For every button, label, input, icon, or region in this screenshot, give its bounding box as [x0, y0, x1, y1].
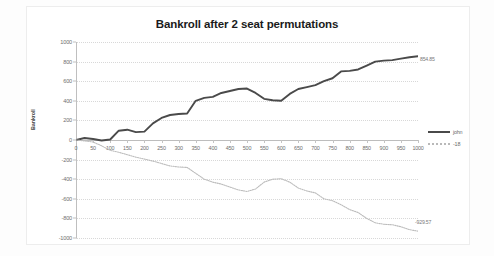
y-tick-label: 400 — [63, 98, 72, 104]
series-line-a — [76, 56, 418, 140]
legend-item-series-b[interactable]: -18 — [428, 138, 488, 150]
chart-title: Bankroll after 2 seat permutations — [0, 18, 494, 30]
gridline — [76, 238, 418, 239]
legend-label-series-b: -18 — [453, 141, 460, 147]
chart-container: Bankroll after 2 seat permutations Bankr… — [0, 0, 494, 256]
y-tick-label: 0 — [69, 137, 72, 143]
series-line-b — [76, 140, 418, 231]
series-a-end-label: 854.85 — [420, 56, 435, 62]
y-tick-label: 200 — [63, 117, 72, 123]
y-tick-label: 800 — [63, 59, 72, 65]
y-tick-label: -600 — [62, 196, 72, 202]
y-tick-label: -400 — [62, 176, 72, 182]
plot-area: 10008006004002000-200-400-600-800-1000 0… — [76, 42, 418, 238]
y-tick-label: 600 — [63, 78, 72, 84]
series-b-end-label: -929.57 — [415, 219, 431, 225]
x-tick-mark — [418, 140, 419, 143]
y-tick-label: 1000 — [60, 39, 72, 45]
legend-swatch-icon — [428, 143, 450, 145]
y-tick-label: -200 — [62, 157, 72, 163]
legend-label-series-a: john — [453, 129, 462, 135]
series-lines — [76, 42, 418, 238]
legend-item-series-a[interactable]: john — [428, 126, 488, 138]
legend: john -18 — [428, 126, 488, 150]
y-tick-label: -1000 — [59, 235, 72, 241]
y-tick-label: -800 — [62, 215, 72, 221]
legend-swatch-icon — [428, 131, 450, 133]
y-axis-title: Bankroll — [30, 109, 36, 130]
